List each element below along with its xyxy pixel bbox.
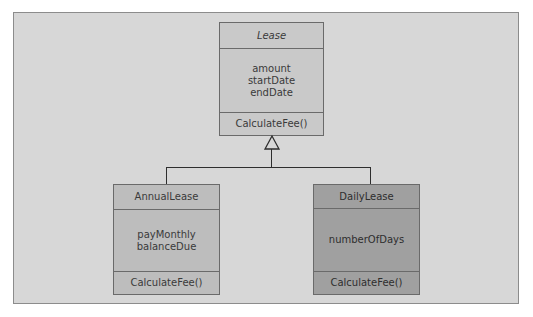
class-annuallease-attributes: payMonthly balanceDue <box>114 209 219 271</box>
attribute-amount: amount <box>252 63 291 75</box>
class-dailylease: DailyLease numberOfDays CalculateFee() <box>313 184 420 295</box>
connector-annual <box>166 167 167 184</box>
connector-trunk <box>271 149 272 167</box>
class-lease-attributes: amount startDate endDate <box>220 48 323 112</box>
class-lease-name: Lease <box>220 23 323 48</box>
attribute-balancedue: balanceDue <box>137 241 197 253</box>
attribute-enddate: endDate <box>250 87 293 99</box>
attribute-paymonthly: payMonthly <box>137 229 195 241</box>
class-lease-methods: CalculateFee() <box>220 112 323 135</box>
connector-horizontal <box>166 167 371 168</box>
generalization-arrow-icon <box>264 135 282 151</box>
connector-daily <box>370 167 371 184</box>
class-annuallease-name: AnnualLease <box>114 185 219 209</box>
attribute-numberofdays: numberOfDays <box>329 234 404 246</box>
class-annuallease-methods: CalculateFee() <box>114 271 219 294</box>
class-lease: Lease amount startDate endDate Calculate… <box>219 22 324 136</box>
class-annuallease: AnnualLease payMonthly balanceDue Calcul… <box>113 184 220 295</box>
class-dailylease-attributes: numberOfDays <box>314 208 419 271</box>
class-dailylease-methods: CalculateFee() <box>314 271 419 294</box>
method-calculatefee: CalculateFee() <box>130 277 202 289</box>
attribute-startdate: startDate <box>248 75 295 87</box>
method-calculatefee: CalculateFee() <box>330 277 402 289</box>
method-calculatefee: CalculateFee() <box>235 118 307 130</box>
class-dailylease-name: DailyLease <box>314 185 419 208</box>
